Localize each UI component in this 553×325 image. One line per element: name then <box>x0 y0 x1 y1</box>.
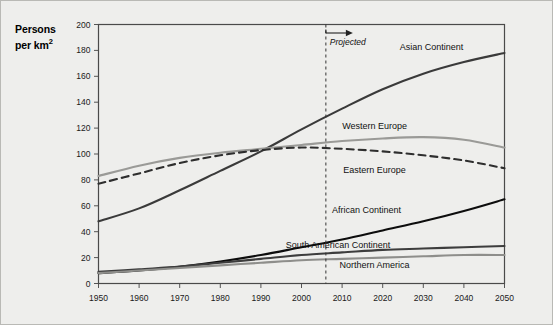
x-tick-label: 2000 <box>292 293 311 303</box>
chart-figure: Persons per km2 020406080100120140160180… <box>0 0 553 325</box>
x-tick-label: 1990 <box>251 293 270 303</box>
series-label: Western Europe <box>342 121 407 131</box>
y-tick-label: 40 <box>81 227 91 237</box>
series-line <box>99 255 505 273</box>
y-tick-label: 160 <box>76 71 90 81</box>
series-line <box>99 147 505 183</box>
y-tick-label: 200 <box>76 20 90 30</box>
x-tick-label: 2050 <box>495 293 514 303</box>
series-label: Asian Continent <box>400 42 464 52</box>
x-tick-label: 2020 <box>373 293 392 303</box>
y-axis-ticks: 020406080100120140160180200 <box>76 20 98 289</box>
x-tick-label: 1970 <box>170 293 189 303</box>
y-tick-label: 0 <box>86 279 91 289</box>
series-label: Eastern Europe <box>343 165 406 175</box>
y-tick-label: 180 <box>76 45 90 55</box>
x-tick-label: 2010 <box>333 293 352 303</box>
plot-area: 020406080100120140160180200 195019601970… <box>1 1 553 325</box>
y-tick-label: 80 <box>81 175 91 185</box>
x-tick-label: 1960 <box>130 293 149 303</box>
series-label: Northern America <box>340 260 410 270</box>
series-line <box>99 246 505 272</box>
x-axis-ticks: 1950196019701980199020002010202020302040… <box>89 284 514 303</box>
y-tick-label: 100 <box>76 149 90 159</box>
series-label: South American Continent <box>286 240 391 250</box>
series-line <box>99 137 505 176</box>
x-tick-label: 1980 <box>211 293 230 303</box>
x-tick-label: 2040 <box>454 293 473 303</box>
x-tick-label: 1950 <box>89 293 108 303</box>
y-tick-label: 20 <box>81 253 91 263</box>
y-tick-label: 140 <box>76 97 90 107</box>
chart-svg: 020406080100120140160180200 195019601970… <box>1 1 553 325</box>
x-tick-label: 2030 <box>414 293 433 303</box>
y-tick-label: 120 <box>76 123 90 133</box>
series-label: African Continent <box>332 205 402 215</box>
series-line <box>99 199 505 273</box>
y-tick-label: 60 <box>81 201 91 211</box>
projected-annotation-label: Projected <box>330 37 366 47</box>
